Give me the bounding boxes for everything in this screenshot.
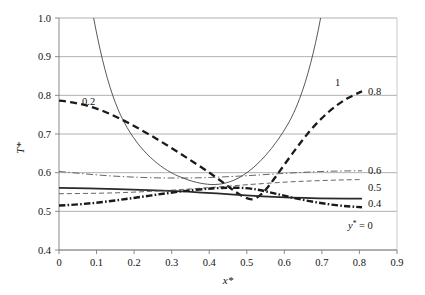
x-tick-label: 0.4 xyxy=(203,257,217,268)
series-label-0.2: 0.2 xyxy=(82,96,95,107)
y-axis-ticks xyxy=(55,18,59,250)
x-tick-label: 0.6 xyxy=(278,257,291,268)
y-axis-title: T* xyxy=(14,142,26,154)
x-tick-label: 0.9 xyxy=(390,257,403,268)
y-tick-label: 0.5 xyxy=(38,206,51,217)
x-tick-label: 0.3 xyxy=(165,257,178,268)
x-tick-label: 0.2 xyxy=(128,257,141,268)
series-label-0.8: 0.8 xyxy=(368,86,381,97)
x-tick-label: 0.8 xyxy=(353,257,366,268)
x-axis-title: x* xyxy=(222,274,234,286)
y-tick-label: 0.8 xyxy=(38,90,51,101)
series-label-0.6: 0.6 xyxy=(368,165,381,176)
chart-container: 1.0 0.9 0.8 0.7 0.6 0.5 0.4 0 0.1 0.2 0.… xyxy=(0,0,425,295)
x-axis-ticks xyxy=(59,250,397,254)
y-tick-label: 1.0 xyxy=(38,13,51,24)
x-tick-label: 0.5 xyxy=(240,257,253,268)
series-label-0.5: 0.5 xyxy=(368,182,381,193)
series-label-1: 1 xyxy=(335,77,340,88)
chart-svg: 1.0 0.9 0.8 0.7 0.6 0.5 0.4 0 0.1 0.2 0.… xyxy=(0,0,425,295)
y-tick-label: 0.7 xyxy=(38,129,51,140)
y-axis-tick-labels: 1.0 0.9 0.8 0.7 0.6 0.5 0.4 xyxy=(38,13,52,256)
y-tick-label: 0.6 xyxy=(38,167,51,178)
y-tick-label: 0.9 xyxy=(38,51,51,62)
x-tick-label: 0 xyxy=(56,257,61,268)
series-label-0.4: 0.4 xyxy=(368,198,382,209)
x-tick-label: 0.1 xyxy=(90,257,103,268)
y-tick-label: 0.4 xyxy=(38,245,52,256)
series-label-y0: y* = 0 xyxy=(347,219,373,231)
x-axis-tick-labels: 0 0.1 0.2 0.3 0.4 0.5 0.6 0.7 0.8 0.9 xyxy=(56,257,403,268)
x-tick-label: 0.7 xyxy=(315,257,328,268)
